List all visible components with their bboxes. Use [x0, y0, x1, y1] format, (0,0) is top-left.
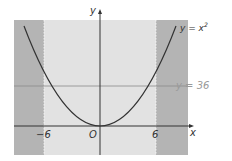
origin-label: O: [89, 129, 97, 140]
tick-label-neg6: −6: [36, 129, 51, 140]
curve-label: y = x2: [179, 21, 208, 33]
x-axis-label: x: [189, 127, 196, 138]
y-axis-label: y: [89, 5, 97, 16]
y-axis-arrow-icon: [98, 9, 102, 14]
parabola-chart: y x O −6 6 y = x2 y = 36: [0, 0, 232, 161]
tick-label-6: 6: [152, 129, 158, 140]
hline-label: y = 36: [175, 80, 209, 91]
